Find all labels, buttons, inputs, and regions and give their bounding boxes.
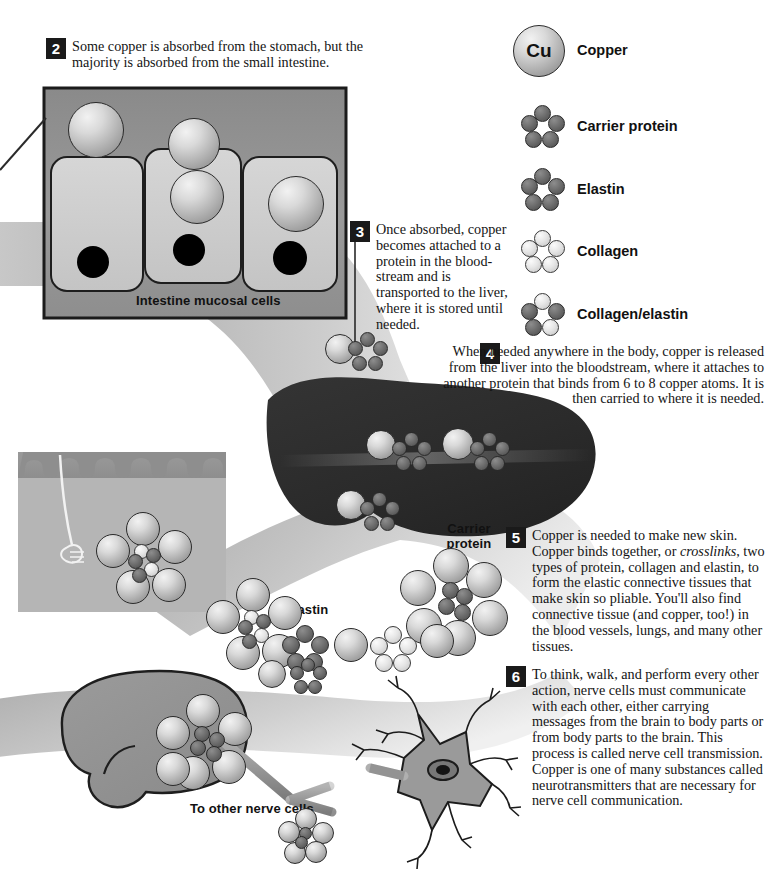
neurotransmitter-complex-nerve [156, 694, 252, 790]
collagen-elastin-complex-skin [96, 512, 192, 608]
collagen-cluster-figure [370, 626, 418, 674]
intestine-label: Intestine mucosal cells [136, 293, 281, 308]
copper-symbol-text: Cu [513, 25, 565, 77]
carrier-protein-liver-3 [360, 492, 402, 534]
step-2-badge: 2 [46, 38, 66, 59]
figure-canvas: 2 Some copper is absorbed from the stoma… [0, 0, 775, 882]
collagen-elastin-icon [521, 293, 565, 337]
carrier-protein-icon [521, 105, 565, 149]
legend-label-collagen-elastin: Collagen/elastin [577, 306, 688, 322]
step-5-text-emph: crosslinks [680, 543, 736, 559]
collagen-icon [521, 230, 565, 274]
step-6-badge: 6 [506, 666, 526, 687]
legend-label-elastin: Elastin [577, 181, 625, 197]
legend-label-carrier-protein: Carrier protein [577, 118, 678, 134]
synapse-cluster [278, 808, 334, 864]
step-3-badge: 3 [350, 221, 370, 242]
legend-label-copper: Copper [577, 42, 628, 58]
step-5-text: Copper is needed to make new skin. Coppe… [532, 528, 766, 654]
carrier-protein-band-3 [290, 658, 328, 696]
carrier-protein-label-line1: Carrier [437, 521, 501, 536]
carrier-protein-liver-1 [392, 432, 434, 474]
carrier-protein-liver-2 [470, 432, 512, 474]
step-5-text-b: , two types of protein, collagen and ela… [532, 543, 765, 654]
step-4-text: When needed anywhere in the body, copper… [432, 344, 764, 407]
legend-label-collagen: Collagen [577, 243, 638, 259]
cell-nucleus-1 [77, 246, 109, 278]
stomach-pointer-line [0, 118, 46, 170]
elastin-icon [521, 168, 565, 212]
step-2-text: Some copper is absorbed from the stomach… [72, 39, 370, 71]
step-5-badge: 5 [506, 527, 526, 548]
step-6-text: To think, walk, and perform every other … [532, 667, 766, 809]
cell-nucleus-2 [173, 234, 205, 266]
cell-nucleus-3 [273, 241, 307, 275]
step-3-text: Once absorbed, copper becomes attached t… [376, 222, 516, 333]
neuron-nucleolus [436, 765, 450, 775]
carrier-protein-transport-1 [348, 332, 390, 374]
